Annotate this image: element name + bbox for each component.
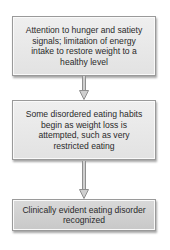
arrow-shaft — [82, 76, 86, 91]
arrow-head-icon — [79, 189, 89, 199]
arrow-shaft — [82, 161, 86, 190]
arrow-down-icon — [79, 76, 89, 100]
flow-step-1-text: Attention to hunger and satiety signals;… — [21, 25, 147, 67]
flow-step-3: Clinically evident eating disorder recog… — [12, 199, 156, 231]
arrow-head-icon — [79, 90, 89, 100]
flow-step-3-text: Clinically evident eating disorder recog… — [21, 205, 147, 226]
flow-step-2: Some disordered eating habits begin as w… — [12, 100, 156, 160]
flow-step-2-text: Some disordered eating habits begin as w… — [21, 109, 147, 151]
arrow-down-icon — [79, 161, 89, 199]
flow-step-1: Attention to hunger and satiety signals;… — [12, 16, 156, 76]
